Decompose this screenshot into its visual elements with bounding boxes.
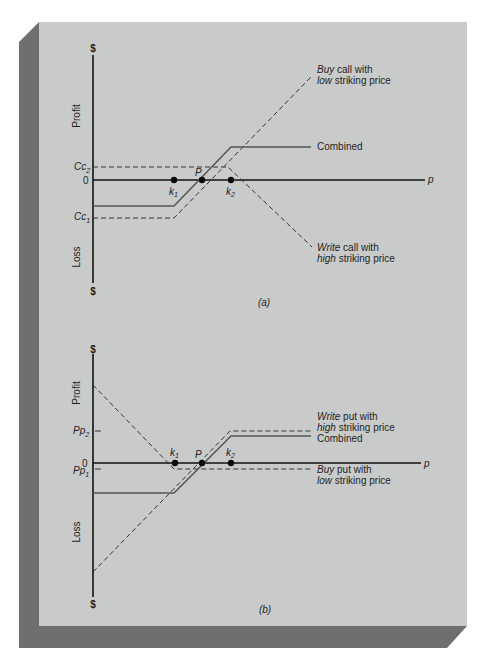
write-call-annotation-line1: Write call with	[317, 242, 379, 253]
dollar-top-label: $	[90, 43, 96, 54]
k2-point	[228, 177, 234, 183]
panel-b-caption: (b)	[259, 604, 271, 615]
buy-put-annotation-line2: low striking price	[317, 475, 391, 486]
p-point-label: P	[195, 449, 202, 460]
page-shadow-left	[19, 22, 39, 626]
tick-zero: 0	[83, 175, 89, 186]
x-axis-label: p	[423, 458, 430, 469]
loss-label: Loss	[71, 521, 82, 542]
p-point-label: P	[195, 167, 202, 178]
profit-label: Profit	[71, 381, 82, 405]
buy-put-annotation-line1: Buy put with	[317, 464, 371, 475]
k1-point	[171, 177, 177, 183]
dollar-bottom-label: $	[90, 599, 96, 610]
write-put-annotation-line1: Write put with	[317, 411, 378, 422]
page-face	[39, 22, 467, 626]
profit-label: Profit	[71, 104, 82, 128]
write-call-annotation-line2: high striking price	[317, 253, 395, 264]
write-put-annotation-line2: high striking price	[317, 422, 395, 433]
loss-label: Loss	[71, 246, 82, 267]
dollar-top-label: $	[90, 344, 96, 355]
buy-call-annotation-line1: Buy call with	[317, 64, 373, 75]
page-shadow-bottom	[19, 626, 467, 648]
k2-point	[228, 460, 234, 466]
combined-annotation: Combined	[317, 141, 363, 152]
figure-canvas: $ $ Profit Loss p Cc2 0 Cc1 k1 P k2 Buy …	[0, 0, 483, 660]
combined-annotation: Combined	[317, 433, 363, 444]
dollar-bottom-label: $	[90, 286, 96, 297]
k1-point	[172, 460, 178, 466]
p-point	[199, 460, 205, 466]
buy-call-annotation-line2: low striking price	[317, 75, 391, 86]
x-axis-label: p	[427, 174, 434, 185]
panel-a-caption: (a)	[258, 297, 270, 308]
